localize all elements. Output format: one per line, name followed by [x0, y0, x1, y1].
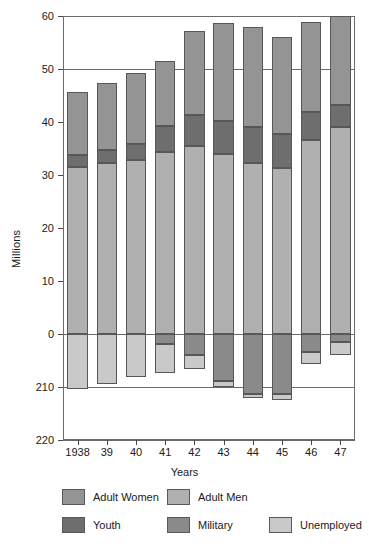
- x-tick-label: 43: [217, 446, 229, 458]
- bar-segment: [97, 163, 117, 334]
- legend-item[interactable]: Military: [167, 517, 233, 533]
- bar-column: [67, 16, 87, 440]
- bar-segment: [243, 163, 263, 334]
- y-tick-label: 40: [42, 116, 54, 128]
- x-axis-title-text: Years: [171, 466, 199, 478]
- y-axis-title-text: Millions: [10, 70, 22, 268]
- x-tick-mark: [340, 440, 341, 445]
- plot-area: 6050403020100210220: [63, 16, 355, 440]
- bar-segment: [67, 155, 87, 167]
- y-tick-label: 30: [42, 169, 54, 181]
- bar-segment: [330, 342, 350, 354]
- y-tick-label: 50: [42, 63, 54, 75]
- bar-segment: [301, 140, 321, 334]
- bar-column: [301, 16, 321, 440]
- bar-column: [272, 16, 292, 440]
- legend-label: Adult Men: [198, 491, 248, 503]
- chart-legend: Adult WomenAdult MenYouthMilitaryUnemplo…: [62, 489, 362, 541]
- bar-segment: [330, 16, 350, 105]
- bar-column: [330, 16, 350, 440]
- bar-segment: [330, 105, 350, 127]
- legend-label: Military: [198, 519, 233, 531]
- x-tick-label: 40: [130, 446, 142, 458]
- bar-segment: [155, 61, 175, 126]
- y-tick-mark: [58, 440, 63, 441]
- bar-segment: [126, 73, 146, 143]
- x-tick-mark: [136, 440, 137, 445]
- bars-layer: [63, 16, 355, 440]
- bar-segment: [126, 334, 146, 377]
- x-tick-label: 46: [305, 446, 317, 458]
- y-tick-label: 210: [36, 381, 54, 393]
- bar-segment: [272, 168, 292, 334]
- bar-segment: [67, 167, 87, 334]
- bar-segment: [243, 334, 263, 394]
- legend-swatch: [62, 489, 85, 505]
- bar-segment: [184, 31, 204, 115]
- x-tick-mark: [194, 440, 195, 445]
- bar-segment: [67, 334, 87, 389]
- legend-label: Youth: [93, 519, 121, 531]
- legend-label: Unemployed: [300, 519, 362, 531]
- bar-segment: [155, 334, 175, 344]
- bar-segment: [97, 150, 117, 163]
- bar-segment: [213, 23, 233, 121]
- y-tick-label: 60: [42, 10, 54, 22]
- bar-column: [97, 16, 117, 440]
- x-tick-label: 41: [159, 446, 171, 458]
- y-tick-label: 0: [48, 328, 54, 340]
- x-tick-mark: [253, 440, 254, 445]
- bar-segment: [301, 22, 321, 112]
- legend-label: Adult Women: [93, 491, 159, 503]
- y-axis-title: Millions: [10, 70, 22, 180]
- legend-item[interactable]: Adult Women: [62, 489, 159, 505]
- bar-segment: [272, 334, 292, 394]
- x-axis-tick-labels: 1938394041424344454647: [63, 446, 355, 462]
- bar-segment: [243, 27, 263, 127]
- bar-segment: [272, 37, 292, 135]
- bar-column: [243, 16, 263, 440]
- bar-segment: [272, 134, 292, 167]
- bar-column: [155, 16, 175, 440]
- bar-segment: [243, 394, 263, 398]
- bar-column: [126, 16, 146, 440]
- legend-item[interactable]: Adult Men: [167, 489, 248, 505]
- legend-swatch: [167, 489, 190, 505]
- bar-segment: [301, 112, 321, 140]
- bar-segment: [301, 334, 321, 352]
- bar-segment: [184, 146, 204, 334]
- chart-root: Millions 6050403020100210220 19383940414…: [0, 0, 369, 544]
- x-tick-mark: [311, 440, 312, 445]
- bar-segment: [184, 355, 204, 369]
- bar-segment: [155, 152, 175, 334]
- bar-segment: [213, 381, 233, 387]
- bar-segment: [155, 344, 175, 374]
- bar-segment: [184, 115, 204, 146]
- bar-segment: [184, 334, 204, 355]
- x-tick-label: 42: [188, 446, 200, 458]
- bar-segment: [67, 92, 87, 155]
- x-axis-title: Years: [0, 466, 369, 478]
- bar-segment: [213, 334, 233, 381]
- bar-segment: [330, 127, 350, 334]
- legend-item[interactable]: Unemployed: [269, 517, 362, 533]
- x-tick-mark: [282, 440, 283, 445]
- x-tick-mark: [224, 440, 225, 445]
- bar-segment: [213, 154, 233, 334]
- bar-segment: [243, 127, 263, 163]
- bar-segment: [155, 126, 175, 153]
- bar-segment: [97, 83, 117, 150]
- x-tick-label: 44: [247, 446, 259, 458]
- bar-segment: [97, 334, 117, 384]
- y-tick-label: 20: [42, 222, 54, 234]
- x-tick-label: 47: [334, 446, 346, 458]
- bar-segment: [272, 394, 292, 399]
- legend-swatch: [167, 517, 190, 533]
- legend-item[interactable]: Youth: [62, 517, 121, 533]
- bar-column: [213, 16, 233, 440]
- legend-swatch: [62, 517, 85, 533]
- x-tick-mark: [165, 440, 166, 445]
- legend-swatch: [269, 517, 292, 533]
- bar-segment: [213, 121, 233, 154]
- y-tick-label: 10: [42, 275, 54, 287]
